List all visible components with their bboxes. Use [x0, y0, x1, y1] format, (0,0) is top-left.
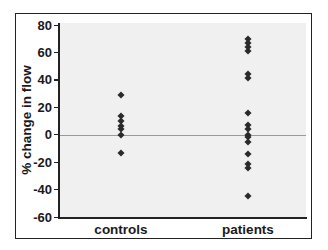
- y-tick-label: 20: [38, 101, 52, 114]
- y-axis-label: % change in flow: [19, 65, 34, 175]
- y-tick-mark: [54, 162, 59, 163]
- zero-reference-line: [59, 135, 306, 136]
- y-tick-mark: [54, 189, 59, 190]
- y-tick-label: -20: [33, 156, 52, 169]
- y-tick-mark: [54, 52, 59, 53]
- x-category-controls: controls: [94, 222, 147, 237]
- y-tick-label: -60: [33, 211, 52, 224]
- y-tick-mark: [54, 107, 59, 108]
- plot-area: [58, 23, 306, 217]
- y-tick-label: 80: [38, 19, 52, 32]
- y-tick-mark: [54, 134, 59, 135]
- y-tick-label: 40: [38, 73, 52, 86]
- y-tick-label: -40: [33, 183, 52, 196]
- x-category-patients: patients: [222, 222, 274, 237]
- y-tick-label: 0: [45, 128, 52, 141]
- y-tick-mark: [54, 217, 59, 218]
- x-axis: [58, 217, 307, 219]
- y-tick-mark: [54, 79, 59, 80]
- y-tick-mark: [54, 25, 59, 26]
- y-tick-label: 60: [38, 46, 52, 59]
